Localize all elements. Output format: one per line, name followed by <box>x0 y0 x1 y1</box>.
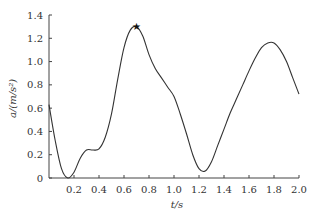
y-tick-label: 0.8 <box>27 79 43 90</box>
x-tick-label: 1.0 <box>166 184 182 195</box>
x-tick-label: 1.6 <box>241 184 257 195</box>
x-tick-label: 0.8 <box>141 184 157 195</box>
peak-star-icon: ★ <box>132 21 141 32</box>
y-tick-label: 1.2 <box>27 33 43 44</box>
x-tick-label: 1.2 <box>191 184 207 195</box>
x-tick-label: 2.0 <box>291 184 307 195</box>
acceleration-chart: 00.20.40.60.81.01.21.40.20.40.60.81.01.2… <box>0 0 322 214</box>
y-tick-label: 0.4 <box>27 126 43 137</box>
y-tick-label: 1.4 <box>27 10 43 21</box>
x-tick-label: 0.4 <box>91 184 107 195</box>
x-tick-label: 1.4 <box>216 184 232 195</box>
x-tick-label: 0.6 <box>116 184 132 195</box>
x-tick-label: 1.8 <box>266 184 282 195</box>
y-tick-label: 0.6 <box>27 103 43 114</box>
x-tick-label: 0.2 <box>66 184 82 195</box>
y-tick-label: 0.2 <box>27 149 43 160</box>
x-axis-label: t/s <box>171 199 184 210</box>
y-tick-label: 0 <box>37 173 43 184</box>
y-axis-label: a/(m/s²) <box>7 79 18 118</box>
series-line <box>49 26 299 178</box>
y-tick-label: 1.0 <box>27 56 43 67</box>
